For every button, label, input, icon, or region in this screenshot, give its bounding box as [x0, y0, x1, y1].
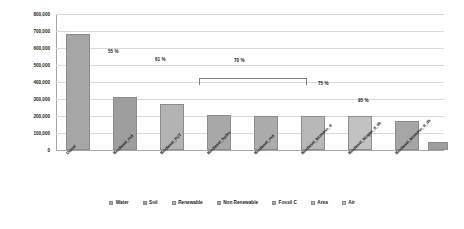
- legend-item-non-renewable: Non Renewable: [217, 200, 258, 205]
- y-tick-label: 500,000: [0, 63, 50, 68]
- y-tick-label: 800,000: [0, 12, 50, 17]
- legend-swatch-icon: [143, 201, 147, 205]
- legend-label: Air: [348, 200, 355, 205]
- y-tick-label: 300,000: [0, 97, 50, 102]
- gridline: [56, 14, 444, 15]
- pct-annotation-2: 61 %: [155, 57, 165, 62]
- y-tick-label: 600,000: [0, 46, 50, 51]
- legend-label: Fossil C: [279, 200, 297, 205]
- legend-item-fossil-c: Fossil C: [272, 200, 297, 205]
- y-tick-label: 0: [0, 148, 50, 153]
- legend-item-water: Water: [109, 200, 128, 205]
- legend-item-area: Area: [311, 200, 328, 205]
- bar: [66, 34, 90, 150]
- pct-annotation-1: 55 %: [108, 49, 118, 54]
- pct-annotation-3: 70 %: [234, 58, 244, 63]
- y-tick-label: 400,000: [0, 80, 50, 85]
- legend-item-soil: Soil: [143, 200, 158, 205]
- legend-swatch-icon: [342, 201, 346, 205]
- y-tick-label: 700,000: [0, 29, 50, 34]
- chart-container: 800,000 700,000 600,000 500,000 400,000 …: [0, 0, 464, 229]
- legend-item-air: Air: [342, 200, 355, 205]
- legend-label: Soil: [149, 200, 158, 205]
- bar: [428, 142, 448, 150]
- gridline: [56, 65, 444, 66]
- legend-label: Non Renewable: [223, 200, 258, 205]
- y-axis-ticks: 800,000 700,000 600,000 500,000 400,000 …: [0, 0, 56, 229]
- chart-legend: Water Soil Renewable Non Renewable Fossi…: [0, 200, 464, 205]
- legend-label: Area: [317, 200, 327, 205]
- legend-swatch-icon: [217, 201, 221, 205]
- legend-swatch-icon: [311, 201, 315, 205]
- y-tick-label: 200,000: [0, 114, 50, 119]
- gridline: [56, 31, 444, 32]
- legend-item-renewable: Renewable: [172, 200, 203, 205]
- legend-label: Water: [116, 200, 129, 205]
- y-tick-label: 100,000: [0, 131, 50, 136]
- legend-swatch-icon: [109, 201, 113, 205]
- grouping-bracket: [199, 78, 307, 85]
- legend-swatch-icon: [272, 201, 276, 205]
- pct-annotation-5: 95 %: [358, 98, 368, 103]
- legend-label: Renewable: [178, 200, 203, 205]
- pct-annotation-4: 75 %: [318, 81, 328, 86]
- legend-swatch-icon: [172, 201, 176, 205]
